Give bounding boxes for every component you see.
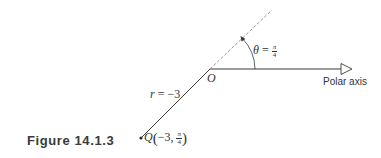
radius-value: −3	[167, 87, 180, 101]
point-q-separator: ,	[170, 130, 173, 144]
radius-symbol: r	[150, 87, 155, 101]
radius-label: r = −3	[150, 88, 180, 100]
close-paren: )	[182, 130, 187, 146]
point-q-r: −3	[158, 130, 171, 144]
point-q-label: Q(−3, π 4 )	[144, 131, 187, 146]
polar-axis-arrowhead	[341, 64, 352, 75]
point-q-name: Q	[144, 130, 153, 144]
angle-fraction: π 4	[272, 44, 278, 59]
figure-caption: Figure 14.1.3	[27, 134, 114, 147]
polar-axis-label: Polar axis	[323, 77, 367, 87]
point-q-dot	[139, 136, 142, 139]
radius-equals: =	[158, 87, 165, 101]
angle-denominator: 4	[272, 52, 278, 59]
angle-label: θ = π 4	[253, 44, 277, 59]
angle-ray-dashed	[210, 10, 272, 69]
theta-symbol: θ	[253, 43, 259, 57]
negative-radius-line	[141, 69, 210, 138]
angle-equals: =	[262, 43, 269, 57]
origin-label: O	[207, 72, 216, 84]
